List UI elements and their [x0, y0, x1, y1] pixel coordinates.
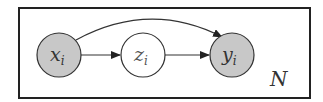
node-z: zi: [121, 33, 165, 77]
plate-label: N: [269, 67, 289, 91]
node-x: xi: [37, 33, 81, 77]
node-y: yi: [210, 33, 254, 77]
diagram-canvas: xi zi yi N: [0, 0, 323, 102]
